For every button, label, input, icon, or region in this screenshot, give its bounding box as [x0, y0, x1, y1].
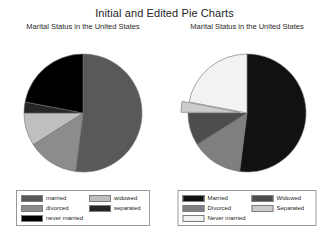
legend-item-label: Married [208, 195, 228, 202]
legend-item-never-married[interactable]: never married [21, 214, 83, 222]
legend-item-widowed[interactable]: Widowed [252, 194, 312, 202]
panel-initial: Marital Status in the United States marr… [2, 22, 164, 249]
panel-edited: Marital Status in the United States Marr… [165, 22, 329, 249]
legend-item-separated[interactable]: Separated [252, 204, 312, 212]
chart-subtitle-initial: Marital Status in the United States [2, 22, 164, 31]
chart-subtitle-edited: Marital Status in the United States [165, 22, 329, 31]
legend-swatch-icon [183, 195, 205, 202]
legend-swatch-icon [21, 205, 43, 212]
legend-column-1: Married Divorced Never married [183, 194, 246, 222]
legend-swatch-icon [183, 215, 205, 222]
legend-initial: married divorced never married widowed [16, 190, 150, 226]
legend-item-label: widowed [114, 195, 137, 202]
legend-swatch-icon [252, 205, 274, 212]
figure-title: Initial and Edited Pie Charts [0, 7, 329, 19]
pie-slice [240, 54, 306, 172]
pie-slice [76, 54, 142, 172]
legend-item-label: married [46, 195, 66, 202]
pie-svg-initial [8, 38, 158, 188]
legend-item-label: Divorced [208, 205, 232, 212]
legend-item-spacer: x [252, 214, 312, 222]
legend-swatch-icon [89, 195, 111, 202]
legend-swatch-icon [89, 205, 111, 212]
legend-item-label: divorced [46, 205, 69, 212]
pie-svg-edited [172, 38, 322, 188]
legend-swatch-icon [21, 215, 43, 222]
pie-chart-edited [165, 38, 329, 190]
figure-root: Initial and Edited Pie Charts Marital St… [0, 0, 329, 249]
legend-swatch-icon [252, 195, 274, 202]
legend-item-label: separated [114, 205, 141, 212]
legend-item-married[interactable]: married [21, 194, 83, 202]
legend-swatch-icon [21, 195, 43, 202]
legend-item-widowed[interactable]: widowed [89, 194, 145, 202]
legend-item-married[interactable]: Married [183, 194, 246, 202]
legend-item-label: Widowed [277, 195, 302, 202]
legend-column-2: widowed separated x [89, 194, 145, 222]
legend-edited: Married Divorced Never married Widowed [178, 190, 317, 226]
legend-column-1: married divorced never married [21, 194, 83, 222]
legend-item-never-married[interactable]: Never married [183, 214, 246, 222]
legend-item-separated[interactable]: separated [89, 204, 145, 212]
legend-item-label: Separated [277, 205, 305, 212]
legend-item-label: Never married [208, 215, 246, 222]
legend-column-2: Widowed Separated x [252, 194, 312, 222]
legend-item-divorced[interactable]: Divorced [183, 204, 246, 212]
legend-item-spacer: x [89, 214, 145, 222]
legend-swatch-icon [183, 205, 205, 212]
legend-item-divorced[interactable]: divorced [21, 204, 83, 212]
pie-chart-initial [2, 38, 164, 190]
legend-item-label: never married [46, 215, 83, 222]
